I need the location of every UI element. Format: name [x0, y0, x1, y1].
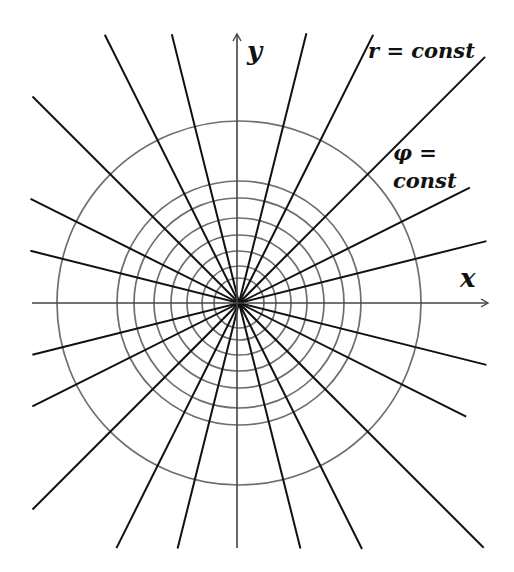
r-const-annotation: r = const: [368, 40, 475, 61]
phi-const-ray: [33, 57, 486, 510]
phi-const-annotation-line2: const: [393, 170, 457, 191]
phi-const-rays: [30, 33, 486, 549]
y-axis-label: y: [247, 38, 262, 64]
polar-grid-diagram: y x r = const φ = const: [0, 0, 514, 572]
phi-const-ray: [32, 188, 469, 407]
phi-const-annotation-line1: φ =: [393, 142, 437, 163]
diagram-canvas: [0, 0, 514, 572]
x-axis-label: x: [460, 265, 476, 291]
phi-const-ray: [31, 199, 467, 417]
